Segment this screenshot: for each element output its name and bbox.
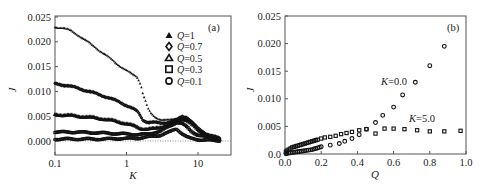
panel-a-tag: (a) (208, 22, 220, 34)
triangle-filled-marker-icon (166, 32, 173, 38)
panel-a-legend: Q=1 Q=0.7 Q=0.5 Q=0.3 Q=0.1 (166, 30, 203, 87)
x-tick-label: 0.4 (351, 157, 365, 168)
legend-item-q05: Q=0.5 (166, 53, 203, 64)
panel-a-y-axis-label: J (6, 86, 18, 92)
panel-a-y-axis: 0.0000.0050.0100.0150.0200.025 (27, 12, 58, 147)
legend-item-q03: Q=0.3 (166, 64, 203, 75)
annotation-label: =5.0 (416, 113, 435, 124)
panel-b-x-axis-label: Q (371, 168, 379, 180)
panel-b-plot-frame (285, 16, 466, 154)
circle-open-marker-icon (166, 78, 172, 84)
series-k00 (284, 44, 446, 155)
panel-a-chart: 0.0000.0050.0100.0150.0200.025 0.1110 K … (6, 12, 231, 182)
svg-text:Q=0.7: Q=0.7 (177, 41, 202, 52)
diamond-open-marker-icon (166, 43, 172, 51)
annotation-k0: K=0.0 (380, 76, 407, 87)
svg-text:Q=0.3: Q=0.3 (177, 64, 202, 75)
y-tick-label: 0.025 (27, 12, 51, 23)
legend-label: =0.5 (184, 53, 202, 64)
y-tick-label: 0.015 (257, 66, 281, 77)
panel-b-y-axis: 0.00.0050.0100.0150.0200.025 (257, 11, 288, 160)
legend-label: =0.7 (184, 41, 202, 52)
y-tick-label: 0.010 (257, 93, 281, 104)
triangle-open-marker-icon (166, 55, 173, 61)
panel-b-data-points (284, 44, 462, 155)
annotation-label: =0.0 (388, 76, 407, 87)
x-tick-label: 0.2 (315, 157, 328, 168)
x-tick-label: 0.1 (48, 158, 61, 169)
legend-item-q1: Q=1 (166, 30, 195, 41)
square-open-marker-icon (166, 66, 172, 72)
legend-item-q01: Q=0.1 (166, 76, 202, 87)
panel-b-chart: 0.00.0050.0100.0150.0200.025 0.00.20.40.… (244, 11, 473, 181)
y-tick-label: 0.015 (27, 61, 51, 72)
legend-label: =0.1 (184, 76, 202, 87)
x-tick-label: 0.8 (423, 157, 436, 168)
panel-b-tag: (b) (447, 22, 460, 34)
y-tick-label: 0.010 (27, 86, 51, 97)
x-tick-label: 1.0 (459, 157, 472, 168)
figure: 0.0000.0050.0100.0150.0200.025 0.1110 K … (0, 0, 487, 186)
panel-b-y-axis-label: J (244, 86, 256, 92)
legend-label: =1 (184, 30, 195, 41)
y-tick-label: 0.000 (27, 136, 51, 147)
series-k50 (284, 127, 462, 153)
x-tick-label: 0.0 (278, 157, 291, 168)
svg-text:Q=0.5: Q=0.5 (177, 53, 202, 64)
svg-text:Q=1: Q=1 (177, 30, 195, 41)
x-tick-label: 10 (193, 158, 204, 169)
y-tick-label: 0.005 (257, 121, 281, 132)
legend-item-q07: Q=0.7 (166, 41, 202, 52)
x-tick-label: 1 (124, 158, 129, 169)
y-tick-label: 0.005 (27, 111, 51, 122)
y-tick-label: 0.020 (27, 36, 51, 47)
y-tick-label: 0.020 (257, 38, 281, 49)
annotation-k5: K=5.0 (408, 113, 435, 124)
y-tick-label: 0.025 (257, 11, 281, 22)
panel-a-x-axis-label: K (128, 169, 137, 181)
legend-label: =0.3 (184, 64, 202, 75)
x-tick-label: 0.6 (387, 157, 400, 168)
svg-text:Q=0.1: Q=0.1 (177, 76, 202, 87)
